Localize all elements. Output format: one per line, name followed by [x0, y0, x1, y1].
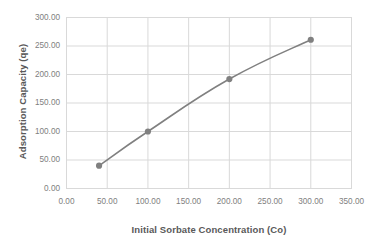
data-point-marker	[145, 128, 151, 134]
data-point-marker	[226, 76, 232, 82]
plot-area	[0, 0, 390, 246]
data-point-marker	[96, 163, 102, 169]
data-point-marker	[308, 37, 314, 43]
chart-container: Adsorption Capacity (qe) Initial Sorbate…	[0, 0, 390, 246]
gridlines	[67, 18, 352, 189]
